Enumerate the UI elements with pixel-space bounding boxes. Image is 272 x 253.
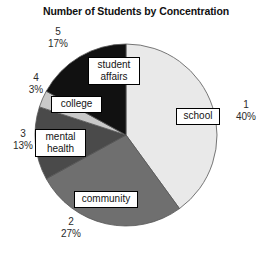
callout-percent-5: 17% [44,38,72,50]
pie-chart-figure: Number of Students by Concentration 5 17… [0,0,272,253]
callout-school: 1 40% [231,99,261,122]
slice-label-school: school [176,108,220,125]
callout-index-3: 3 [8,128,38,140]
slice-label-student-affairs: student affairs [88,57,140,85]
callout-percent-4: 3% [22,84,50,96]
callout-index-1: 1 [231,99,261,111]
slice-label-mental-health: mental health [35,129,86,157]
callout-college: 4 3% [22,72,50,95]
callout-percent-3: 13% [8,140,38,152]
callout-community: 2 27% [56,216,86,239]
pie-graphic [0,0,272,253]
callout-mental-health: 3 13% [8,128,38,151]
callout-student-affairs: 5 17% [44,26,72,49]
callout-index-5: 5 [44,26,72,38]
callout-percent-1: 40% [231,111,261,123]
callout-index-2: 2 [56,216,86,228]
callout-index-4: 4 [22,72,50,84]
callout-percent-2: 27% [56,228,86,240]
slice-label-community: community [74,191,138,208]
slice-label-college: college [51,96,102,113]
